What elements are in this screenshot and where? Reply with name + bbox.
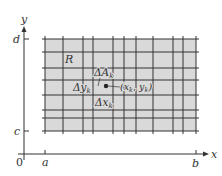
- sample-point-icon: [104, 84, 108, 88]
- tick-label-c: c: [14, 125, 20, 138]
- tick-label-b: b: [192, 157, 199, 170]
- x-axis-label: x: [211, 148, 218, 161]
- y-axis-arrow-icon: [22, 26, 27, 32]
- origin-label: 0: [16, 156, 23, 169]
- riemann-double-integral-diagram: y x 0 a b c d R ΔAk Δyk Δxk (xk, yk): [0, 0, 222, 176]
- tick-label-a: a: [42, 156, 49, 169]
- region-label: R: [64, 53, 73, 66]
- y-axis-label: y: [20, 13, 28, 26]
- tick-label-d: d: [13, 33, 20, 46]
- x-axis-arrow-icon: [203, 152, 209, 157]
